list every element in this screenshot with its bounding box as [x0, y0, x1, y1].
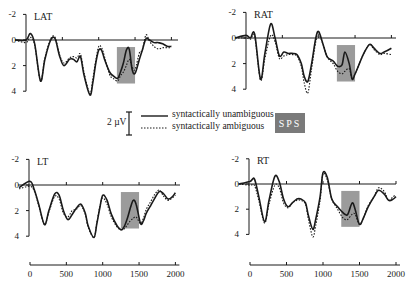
erp-figure: -2024LAT-2024RAT-2024LT0500100015002000-… [0, 0, 410, 286]
waveform-ambiguous [235, 34, 391, 93]
waveform-unambiguous [15, 34, 171, 96]
x-tick-label: 500 [280, 269, 294, 279]
x-tick-label: 0 [28, 269, 33, 279]
y-tick-label: 4 [232, 84, 237, 94]
waveform-unambiguous [235, 24, 391, 82]
x-tick-label: 1500 [351, 269, 370, 279]
y-tick-label: 2 [235, 204, 240, 214]
x-axis-rt: 0500100015002000 [248, 262, 406, 279]
panel-lat: -2024LAT [9, 9, 179, 96]
waveform-ambiguous [19, 186, 175, 237]
x-tick-label: 2000 [166, 269, 185, 279]
sps-window-shading [337, 45, 355, 81]
y-tick-label: 2 [15, 206, 20, 216]
panel-label: LT [37, 156, 48, 167]
y-tick-label: -2 [12, 154, 20, 164]
y-tick-label: 4 [235, 229, 240, 239]
x-tick-label: 1500 [130, 269, 149, 279]
x-tick-label: 0 [248, 269, 253, 279]
y-tick-label: 4 [15, 231, 20, 241]
panel-label: RT [257, 155, 269, 166]
panel-label: LAT [34, 11, 52, 22]
waveform-ambiguous [239, 173, 396, 237]
waveform-unambiguous [239, 172, 396, 230]
x-tick-label: 2000 [387, 269, 406, 279]
panel-rat: -2024RAT [229, 7, 397, 94]
calibration-bar [126, 112, 132, 135]
panel-label: RAT [254, 9, 273, 20]
panel-lt: -2024LT [12, 154, 181, 241]
x-tick-label: 1000 [94, 269, 113, 279]
y-tick-label: 2 [12, 61, 17, 71]
y-tick-label: 2 [232, 59, 237, 69]
waveform-unambiguous [19, 181, 175, 237]
x-tick-label: 1000 [314, 269, 333, 279]
y-tick-label: -2 [232, 154, 240, 164]
y-tick-label: 4 [12, 86, 17, 96]
y-tick-label: -2 [9, 9, 17, 19]
y-tick-label: -2 [229, 7, 237, 17]
x-axis-lt: 0500100015002000 [28, 262, 185, 279]
panel-rt: -2024RT [232, 154, 397, 240]
x-tick-label: 500 [60, 269, 74, 279]
